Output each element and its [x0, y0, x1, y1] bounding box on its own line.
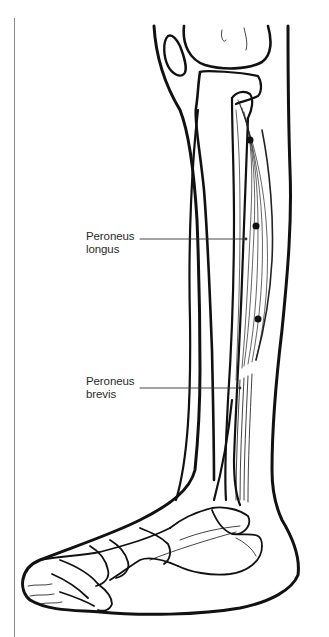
label-line-1: Peroneus	[86, 230, 134, 243]
label-peroneus-brevis: Peroneus brevis	[86, 375, 134, 400]
fibula-head	[232, 92, 252, 118]
foot-bones	[40, 507, 262, 610]
label-peroneus-longus: Peroneus longus	[86, 230, 134, 255]
patella	[164, 35, 185, 75]
marker-3	[255, 316, 262, 323]
label-line-2: brevis	[86, 388, 134, 401]
peroneal-tendons	[236, 374, 252, 502]
leg-anatomy-figure: Peroneus longus Peroneus brevis	[0, 0, 329, 637]
marker-1	[247, 137, 254, 144]
label-line-2: longus	[86, 243, 134, 256]
label-line-1: Peroneus	[86, 375, 134, 388]
peroneus-muscle	[236, 100, 273, 380]
marker-2	[253, 223, 260, 230]
femur-condyle	[184, 26, 271, 68]
leg-illustration	[0, 0, 329, 637]
